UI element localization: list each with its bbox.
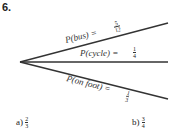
answer-a: a) 23 xyxy=(16,116,28,129)
branch-cycle-label: P(cycle) = xyxy=(79,48,118,58)
tree-diagram: P(bus) = P(cycle) = P(on foot) = xyxy=(0,0,175,131)
answer-b: b) 34 xyxy=(132,116,145,129)
branch-cycle-fraction: 1 4 xyxy=(133,46,136,59)
branch-foot-label: P(on foot) = xyxy=(65,73,112,94)
